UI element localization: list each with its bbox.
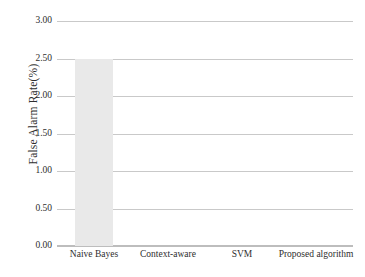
- bar: [75, 59, 113, 247]
- y-axis-tick-label: 2.00: [12, 90, 52, 100]
- bars: [57, 21, 353, 246]
- y-axis-tick-label: 3.00: [12, 15, 52, 25]
- y-axis-tick-label: 1.50: [12, 128, 52, 138]
- y-axis-tick-label: 2.50: [12, 53, 52, 63]
- y-axis-title: False Alarm Rate(%): [27, 19, 39, 209]
- x-axis-tick-label: Proposed algorithm: [256, 249, 365, 259]
- plot-area: [57, 21, 353, 246]
- bar-chart: False Alarm Rate(%) 0.000.501.001.502.00…: [0, 0, 365, 277]
- y-axis-tick-label: 0.50: [12, 203, 52, 213]
- y-axis-tick-label: 1.00: [12, 165, 52, 175]
